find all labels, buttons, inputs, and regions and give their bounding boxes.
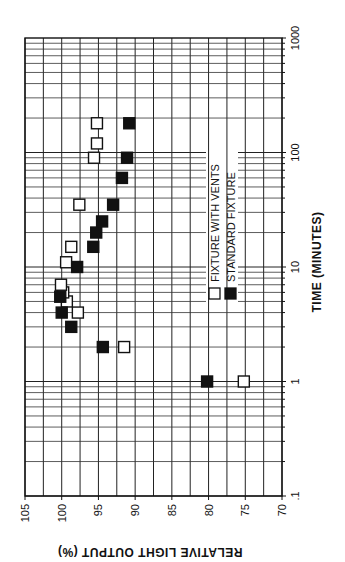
point-standard-fixture <box>56 307 67 318</box>
point-fixture-with-vents <box>238 376 249 387</box>
point-fixture-with-vents <box>119 342 130 353</box>
x-tick-label: 1000 <box>289 26 301 50</box>
y-tick-label: 80 <box>203 504 215 516</box>
y-tick-label: 100 <box>56 504 68 522</box>
point-fixture-with-vents <box>55 279 66 290</box>
y-tick-label: 70 <box>276 504 288 516</box>
point-standard-fixture <box>108 199 119 210</box>
point-fixture-with-vents <box>74 199 85 210</box>
legend-marker-open-square <box>209 288 220 299</box>
y-axis-title: RELATIVE LIGHT OUTPUT (%) <box>58 545 243 559</box>
x-tick-label: .1 <box>289 491 301 500</box>
x-tick-label: 10 <box>289 261 301 273</box>
point-standard-fixture <box>97 342 108 353</box>
point-standard-fixture <box>124 118 135 129</box>
point-standard-fixture <box>97 216 108 227</box>
legend-label-standard: STANDARD FIXTURE <box>225 172 237 282</box>
point-standard-fixture <box>66 321 77 332</box>
legend-label-vents: FIXTURE WITH VENTS <box>209 164 221 282</box>
point-fixture-with-vents <box>91 138 102 149</box>
point-standard-fixture <box>72 262 83 273</box>
point-fixture-with-vents <box>72 307 83 318</box>
point-fixture-with-vents <box>66 241 77 252</box>
y-tick-label: 85 <box>166 504 178 516</box>
point-standard-fixture <box>122 152 133 163</box>
y-tick-label: 75 <box>239 504 251 516</box>
y-tick-label: 105 <box>19 504 31 522</box>
y-tick-label: 95 <box>92 504 104 516</box>
legend-marker-filled-square <box>225 288 236 299</box>
point-fixture-with-vents <box>89 152 100 163</box>
point-standard-fixture <box>55 291 66 302</box>
x-tick-label: 100 <box>289 143 301 161</box>
point-standard-fixture <box>88 241 99 252</box>
chart-figure: 105100959085807570.11101001000 FIXTURE W… <box>0 0 345 562</box>
point-standard-fixture <box>202 376 213 387</box>
point-fixture-with-vents <box>61 257 72 268</box>
x-axis-title: TIME (MINUTES) <box>310 212 324 313</box>
point-standard-fixture <box>116 172 127 183</box>
x-tick-label: 1 <box>289 378 301 384</box>
point-fixture-with-vents <box>91 118 102 129</box>
point-standard-fixture <box>91 227 102 238</box>
y-tick-label: 90 <box>129 504 141 516</box>
